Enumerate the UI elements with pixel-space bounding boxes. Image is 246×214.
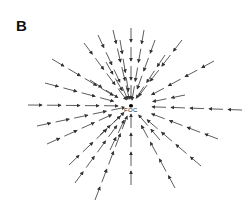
flow-arrow-segment xyxy=(202,61,214,68)
flow-arrow-segment xyxy=(173,40,182,51)
flow-arrow-segment xyxy=(152,88,164,95)
flow-arrow-segment xyxy=(95,187,100,200)
flow-arrow-segment xyxy=(64,130,77,136)
flow-arrow-segment xyxy=(157,55,165,67)
flow-arrow-segment xyxy=(98,35,104,48)
flow-arrow-segment xyxy=(153,99,167,102)
flow-arrow-segment xyxy=(95,58,103,69)
flow-arrow-segment xyxy=(138,49,140,63)
flow-arrow-segment xyxy=(114,70,120,83)
flow-arrow-segment xyxy=(106,62,113,74)
flow-arrow-segment xyxy=(115,134,120,147)
flow-arrow-segment xyxy=(75,172,83,183)
flow-arrow-segment xyxy=(205,134,218,139)
flow-arrow-segment xyxy=(85,78,97,85)
flow-arrow-segment xyxy=(83,142,93,152)
flow-arrow-segment xyxy=(171,107,185,108)
flow-arrow-segment xyxy=(168,79,180,86)
flow-arrow-segment xyxy=(93,111,107,114)
flow-arrow-segment xyxy=(84,43,92,54)
flow-arrow-segment xyxy=(135,68,137,82)
flow-arrow-segment xyxy=(150,40,155,53)
flow-arrow-segment xyxy=(152,107,166,108)
flow-arrow-segment xyxy=(111,107,125,110)
flow-arrow-segment xyxy=(97,141,105,152)
flow-arrow-segment xyxy=(162,55,171,66)
foc-label: FOC xyxy=(124,107,138,113)
flow-arrow-segment xyxy=(144,58,149,71)
flow-arrow-segment xyxy=(171,95,185,98)
flow-arrow-segment xyxy=(162,132,173,141)
flow-arrow-segment xyxy=(168,176,175,188)
flow-arrow-segment xyxy=(56,119,70,122)
flow-arrow-segment xyxy=(123,59,125,73)
flow-arrow-segment xyxy=(82,93,96,97)
flow-arrow-segment xyxy=(132,86,134,100)
flow-arrow-segment xyxy=(52,59,64,66)
flow-arrow-segment xyxy=(187,127,200,132)
flow-arrow-segment xyxy=(139,85,148,96)
flow-arrow-segment xyxy=(100,98,114,102)
flow-arrow-segment xyxy=(102,169,107,182)
flow-arrow-segment xyxy=(152,114,165,119)
flow-arrow-segment xyxy=(190,157,201,166)
flow-arrow-segment xyxy=(74,115,88,118)
flow-arrow-segment xyxy=(141,125,148,137)
flow-arrow-segment xyxy=(99,115,112,121)
flow-arrow-segment xyxy=(106,90,118,98)
flow-arrow-segment xyxy=(37,123,51,126)
flow-arrow-segment xyxy=(137,76,142,89)
flow-arrow-segment xyxy=(90,80,102,88)
flow-arrow-segment xyxy=(117,49,120,63)
flow-arrow-segment xyxy=(45,83,59,87)
flow-arrow-segment xyxy=(114,113,124,123)
flow-arrow-segment xyxy=(69,155,79,165)
flow-arrow-segment xyxy=(190,108,204,109)
radial-flow-field xyxy=(0,0,246,214)
flow-arrow-segment xyxy=(101,88,113,95)
flow-arrow-segment xyxy=(150,142,157,154)
flow-arrow-segment xyxy=(185,70,197,77)
flow-arrow-segment xyxy=(176,145,187,154)
flow-arrow-segment xyxy=(228,110,242,111)
flow-arrow-segment xyxy=(86,156,94,167)
flow-arrow-segment xyxy=(169,121,182,126)
flow-arrow-segment xyxy=(113,30,116,44)
flow-arrow-segment xyxy=(109,126,117,137)
flow-arrow-segment xyxy=(209,109,223,110)
flow-arrow-segment xyxy=(82,123,95,129)
flow-arrow-segment xyxy=(139,115,148,126)
flow-arrow-segment xyxy=(142,30,144,44)
flow-arrow-segment xyxy=(151,129,160,140)
flow-arrow-segment xyxy=(110,137,116,150)
flow-arrow-segment xyxy=(47,138,60,144)
flow-arrow-segment xyxy=(68,69,80,76)
flow-arrow-segment xyxy=(63,88,77,92)
flow-vectors xyxy=(28,28,242,200)
flow-arrow-segment xyxy=(100,125,110,135)
flow-arrow-segment xyxy=(120,40,122,54)
flow-arrow-segment xyxy=(147,120,158,129)
flow-arrow-segment xyxy=(109,151,114,164)
flow-arrow-segment xyxy=(159,159,166,171)
flow-arrow-segment xyxy=(107,74,115,85)
